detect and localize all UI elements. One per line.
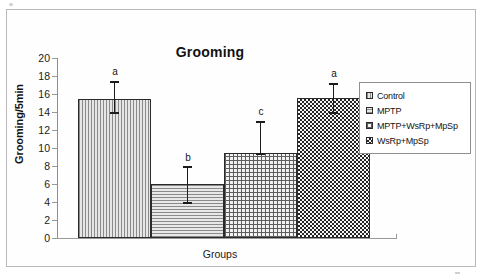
legend-item-mptp[interactable]: MPTP (366, 103, 466, 118)
y-tick-label-12: 12 (16, 125, 50, 135)
error-cap-upper-control (110, 81, 119, 83)
x-axis-title: Groups (150, 248, 290, 260)
y-tick-label-14: 14 (16, 107, 50, 117)
error-cap-upper-mptp (183, 166, 192, 168)
scan-artifact (455, 272, 460, 274)
y-tick-label-2: 2 (16, 215, 50, 225)
y-tick-label-4: 4 (16, 197, 50, 207)
legend-item-mptp-wsrp-mpsp[interactable]: MPTP+WsRp+MpSp (366, 118, 466, 133)
legend-label-mptp-wsrp-mpsp: MPTP+WsRp+MpSp (377, 121, 458, 131)
error-cap-lower-mptp (183, 202, 192, 204)
bar-control[interactable] (78, 99, 151, 239)
legend-label-mptp: MPTP (377, 106, 401, 116)
chart-page: Grooming Grooming/5min Groups 20 18 16 1… (0, 0, 484, 280)
error-cap-lower-mptp-wsrp-mpsp (256, 153, 265, 155)
legend-swatch-mptp-wsrp-mpsp-icon (366, 122, 373, 129)
legend-label-wsrp-mpsp: WsRp+MpSp (377, 136, 428, 146)
error-cap-upper-mptp-wsrp-mpsp (256, 121, 265, 123)
legend-swatch-wsrp-mpsp-icon (366, 137, 373, 144)
significance-letter-mptp: b (178, 153, 198, 163)
legend-item-wsrp-mpsp[interactable]: WsRp+MpSp (366, 133, 466, 148)
legend-item-control[interactable]: Control (366, 88, 466, 103)
error-bar-wsrp-mpsp (333, 83, 334, 112)
x-axis-end-tick (396, 234, 397, 239)
plot-area: a b c a (57, 58, 360, 238)
y-tick-label-10: 10 (16, 143, 50, 153)
y-tick-label-8: 8 (16, 161, 50, 171)
significance-letter-wsrp-mpsp: a (324, 69, 344, 79)
legend-swatch-control-icon (366, 92, 373, 99)
chart-legend: Control MPTP MPTP+WsRp+MpSp WsRp+MpSp (359, 82, 471, 154)
x-axis-line (57, 238, 397, 239)
significance-letter-mptp-wsrp-mpsp: c (251, 107, 271, 117)
error-cap-lower-control (110, 112, 119, 114)
y-tick-label-18: 18 (16, 71, 50, 81)
legend-label-control: Control (377, 91, 405, 101)
bar-mptp-wsrp-mpsp[interactable] (224, 153, 297, 239)
y-tick-label-20: 20 (16, 53, 50, 63)
error-bar-control (114, 81, 115, 113)
error-bar-mptp-wsrp-mpsp (260, 121, 261, 153)
scan-artifact (9, 3, 13, 6)
legend-swatch-mptp-icon (366, 107, 373, 114)
error-bar-mptp (187, 166, 188, 202)
y-tick-label-16: 16 (16, 89, 50, 99)
y-tick-label-6: 6 (16, 179, 50, 189)
significance-letter-control: a (105, 67, 125, 77)
error-cap-lower-wsrp-mpsp (329, 112, 338, 114)
y-tick-0 (52, 238, 57, 239)
y-tick-label-0: 0 (16, 233, 50, 243)
error-cap-upper-wsrp-mpsp (329, 83, 338, 85)
